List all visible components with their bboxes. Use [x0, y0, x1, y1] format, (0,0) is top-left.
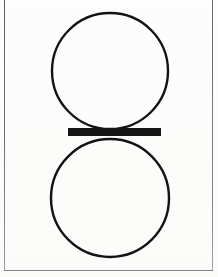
lower-circle-shape [51, 139, 169, 257]
figure-eight-drawing [0, 0, 218, 277]
upper-circle-shape [52, 13, 168, 129]
center-bar-shape [68, 128, 161, 136]
figure-page [0, 0, 218, 277]
